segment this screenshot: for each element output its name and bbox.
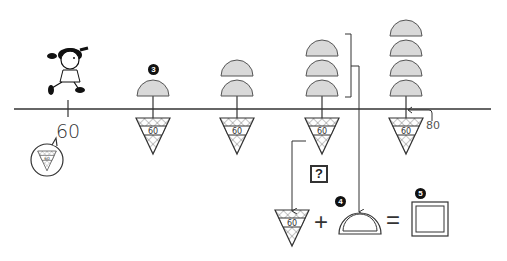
equation-cone xyxy=(275,210,309,246)
start-value-label: 60 xyxy=(56,120,80,142)
end-value-label: 80 xyxy=(426,119,440,132)
question-box: ? xyxy=(310,165,328,183)
bracket-arrow xyxy=(345,34,359,212)
tick-marks xyxy=(68,96,406,118)
cones xyxy=(136,118,423,154)
equation-half-circle xyxy=(339,213,381,234)
equals-sign: = xyxy=(386,206,400,234)
step-3-badge: 3 xyxy=(148,64,159,75)
plus-sign: + xyxy=(314,208,328,236)
equation-answer-box xyxy=(412,202,448,236)
cone-connector xyxy=(292,141,306,211)
scoops xyxy=(137,20,422,96)
step-4-badge: 4 xyxy=(335,196,346,207)
step-5-badge: 5 xyxy=(415,188,426,199)
child-figure xyxy=(47,48,88,95)
start-cone-badge xyxy=(31,138,63,176)
